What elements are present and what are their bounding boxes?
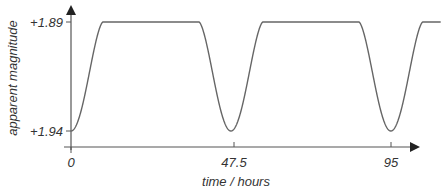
x-tick-label-47.5: 47.5: [221, 155, 247, 170]
light-curve-chart: +1.89 +1.94 0 47.5 95 time / hours appar…: [0, 0, 441, 190]
x-tick-label-95: 95: [384, 155, 399, 170]
y-tick-label-bottom: +1.94: [30, 124, 63, 139]
y-tick-label-top: +1.89: [30, 15, 63, 30]
x-axis-title: time / hours: [202, 174, 270, 189]
x-tick-label-0: 0: [67, 155, 75, 170]
y-axis-title: apparent magnitude: [5, 20, 20, 136]
light-curve-line: [71, 22, 441, 131]
